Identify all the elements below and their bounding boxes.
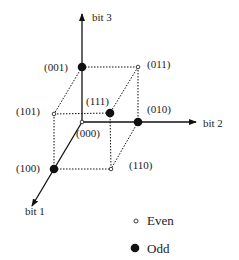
legend-even-icon <box>134 219 138 223</box>
vertex-011 <box>136 65 140 69</box>
legend: Even Odd <box>131 213 175 256</box>
vertex-101 <box>52 112 56 116</box>
vertex-100 <box>50 165 59 174</box>
vertex-110 <box>109 167 113 171</box>
label-100: (100) <box>16 162 40 175</box>
vertex-111 <box>106 109 115 118</box>
legend-even-label: Even <box>147 213 174 228</box>
legend-odd-icon <box>131 244 140 253</box>
label-110: (110) <box>129 159 153 172</box>
cube-diagram: (000) (001) (010) (011) (100) (101) (110… <box>0 0 239 260</box>
legend-odd-label: Odd <box>147 241 170 256</box>
cube-edges <box>54 67 138 169</box>
label-010: (010) <box>147 103 171 116</box>
axis-label-bit2: bit 2 <box>203 117 223 129</box>
axis-label-bit3: bit 3 <box>92 11 112 23</box>
label-101: (101) <box>16 105 40 118</box>
label-001: (001) <box>44 61 68 74</box>
vertex-001 <box>78 63 87 72</box>
vertex-010 <box>134 118 143 127</box>
label-000: (000) <box>76 127 100 140</box>
axis-label-bit1: bit 1 <box>25 205 45 217</box>
label-111: (111) <box>86 95 109 108</box>
vertex-000 <box>80 120 84 124</box>
label-011: (011) <box>147 58 171 71</box>
